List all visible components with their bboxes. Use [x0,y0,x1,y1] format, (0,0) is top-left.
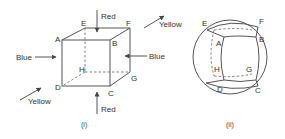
vertex-e-ii: E [202,19,207,28]
sphere-figure: A B C D E F G H (ii) [193,17,267,129]
cube-top-edges [62,28,130,40]
vertex-c: C [108,89,114,98]
sphere-hidden-hg [214,74,252,77]
sphere-hidden-ef [214,29,252,31]
vertex-h-ii: H [214,65,220,74]
sphere-front-face [221,36,259,82]
vertex-a: A [55,35,61,44]
vertex-a-ii: A [216,39,222,48]
sphere-bottom-band [206,83,258,88]
vertex-d: D [55,83,61,92]
caption-i: (i) [81,121,87,129]
vertex-b: B [112,39,117,48]
caption-ii: (ii) [226,121,234,129]
vertex-b-ii: B [259,35,264,44]
label-yellow-top-right: Yellow [159,20,182,29]
cube-right-edges [110,28,130,86]
label-blue-right: Blue [149,52,166,61]
vertex-g-ii: G [246,65,252,74]
vertex-d-ii: D [217,85,223,94]
sphere-outline [193,20,267,94]
vertex-e: E [81,19,86,28]
label-red-top: Red [101,12,116,21]
hidden-edge-hd [62,72,85,86]
vertex-g: G [131,74,137,83]
vertex-c-ii: C [255,86,261,95]
vertex-h: H [79,65,85,74]
vertex-f: F [126,19,131,28]
cube-figure: A B C D E F G H Red Red Blue Blue Yellow… [16,10,182,129]
label-blue-left: Blue [16,53,33,62]
label-yellow-bottom-left: Yellow [28,97,51,106]
label-red-bottom: Red [101,105,116,114]
diagram-canvas: A B C D E F G H Red Red Blue Blue Yellow… [0,0,285,139]
vertex-f-ii: F [259,17,264,26]
cube-front-face [62,40,110,86]
